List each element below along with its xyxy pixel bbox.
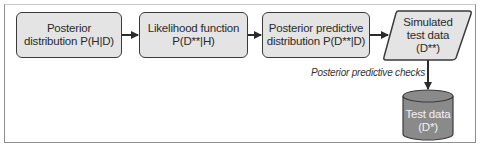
edge-label-posterior-predictive-checks: Posterior predictive checks (311, 67, 425, 78)
node-label-line: distribution P(H|D) (24, 35, 114, 48)
node-label-line: P(D**|H) (172, 35, 214, 48)
node-likelihood-function: Likelihood function P(D**|H) (139, 12, 248, 58)
node-label-line: Test data (406, 108, 451, 121)
node-label-line: Likelihood function (148, 22, 239, 35)
node-posterior-distribution: Posterior distribution P(H|D) (16, 12, 122, 58)
node-label-line: distribution P(D**|D) (267, 35, 366, 48)
node-label-line: test data (407, 29, 449, 42)
node-label-line: Posterior (47, 22, 91, 35)
node-label-line: (D*) (418, 121, 438, 134)
node-label-line: Posterior predictive (269, 22, 363, 35)
node-label-line: Simulated (403, 16, 452, 29)
node-simulated-test-data: Simulated test data (D**) (388, 12, 468, 59)
node-posterior-predictive: Posterior predictive distribution P(D**|… (262, 12, 370, 58)
node-label-line: (D**) (416, 42, 440, 55)
node-test-data: Test data (D*) (403, 104, 453, 138)
